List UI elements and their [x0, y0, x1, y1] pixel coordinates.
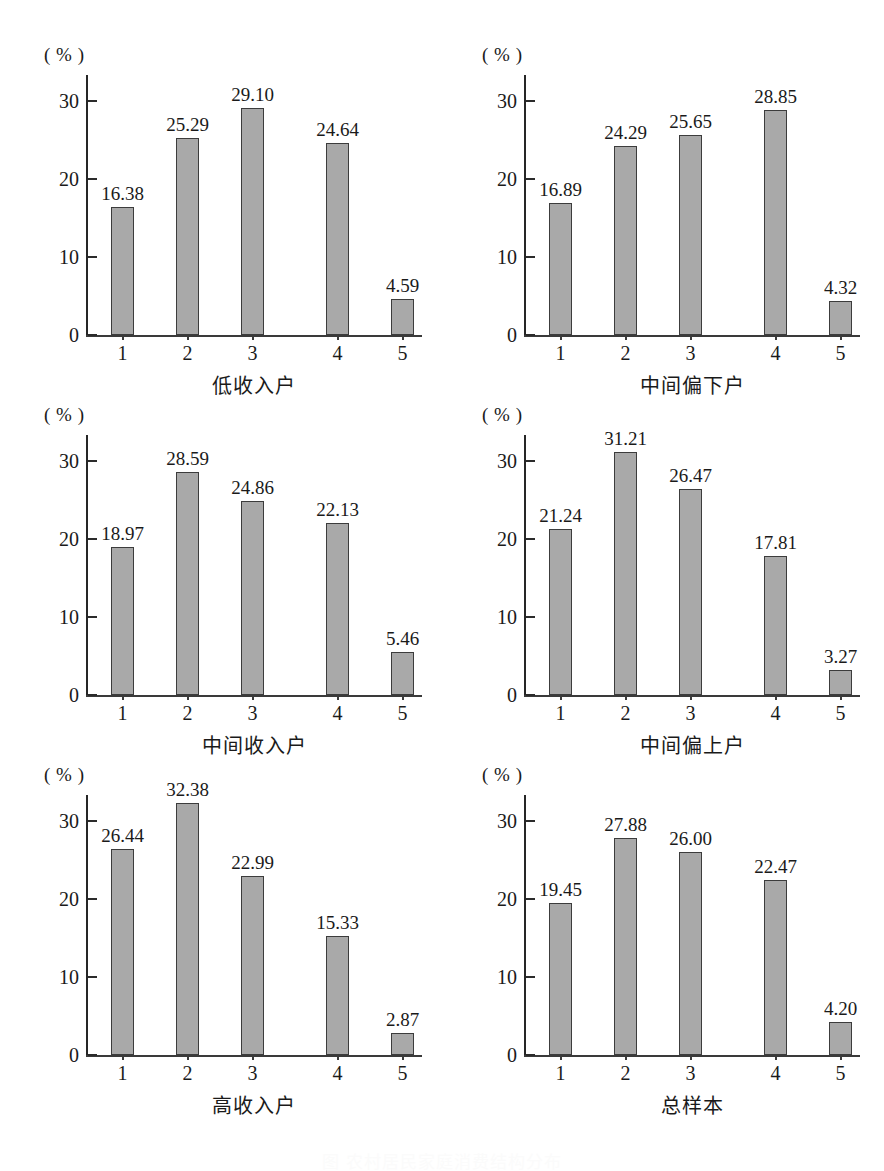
bar-value-label: 15.33: [316, 912, 359, 934]
y-axis-tick-label: 0: [69, 684, 88, 707]
x-axis-tick-mark: [187, 1055, 189, 1060]
bar: 26.44: [111, 849, 134, 1055]
bar: 3.27: [829, 670, 852, 695]
x-axis-tick-label: 2: [606, 1062, 646, 1085]
bar: 24.64: [326, 143, 349, 335]
y-axis-tick-label: 10: [59, 246, 88, 269]
bar: 16.38: [111, 207, 134, 335]
x-axis-tick-mark: [840, 335, 842, 340]
y-axis-tick-label: 20: [497, 168, 526, 191]
bar: 24.86: [241, 501, 264, 695]
x-axis-tick-label: 3: [233, 1062, 273, 1085]
bar-value-label: 24.29: [604, 122, 647, 144]
x-axis-tick-mark: [775, 335, 777, 340]
bar: 26.00: [679, 852, 702, 1055]
bar: 28.59: [176, 472, 199, 695]
x-axis-tick-label: 2: [606, 342, 646, 365]
x-axis-tick-mark: [122, 695, 124, 700]
x-axis-line: [524, 335, 860, 337]
plot-area: 21.2431.2126.4717.813.27: [526, 437, 858, 695]
x-axis-tick-mark: [252, 695, 254, 700]
x-axis-tick-label: 4: [756, 702, 796, 725]
bar-value-label: 22.47: [754, 856, 797, 878]
x-axis-tick-mark: [187, 335, 189, 340]
plot-area: 16.3825.2929.1024.644.59: [88, 77, 420, 335]
x-axis-tick-label: 1: [541, 1062, 581, 1085]
bar: 27.88: [614, 838, 637, 1055]
x-axis-tick-label: 5: [821, 702, 861, 725]
y-axis-unit-label: ( % ): [482, 404, 522, 426]
bar-value-label: 25.29: [166, 114, 209, 136]
x-axis-tick-label: 4: [318, 1062, 358, 1085]
x-axis-tick-label: 5: [383, 702, 423, 725]
bar-value-label: 26.44: [101, 825, 144, 847]
x-axis-tick-mark: [402, 335, 404, 340]
bar-value-label: 28.59: [166, 448, 209, 470]
chart-panel-6: ( % )010203019.4527.8826.0022.474.201234…: [438, 742, 880, 1122]
x-axis-tick-label: 4: [318, 342, 358, 365]
y-axis-unit-label: ( % ): [482, 764, 522, 786]
x-axis-tick-mark: [690, 1055, 692, 1060]
bar-value-label: 19.45: [539, 879, 582, 901]
bar: 26.47: [679, 489, 702, 695]
x-axis-line: [86, 695, 422, 697]
bar-value-label: 27.88: [604, 814, 647, 836]
figure-caption: 图 农村居民家庭消费结构分布: [0, 1148, 884, 1171]
x-axis-tick-mark: [690, 335, 692, 340]
bar-value-label: 22.99: [231, 852, 274, 874]
x-axis-tick-mark: [775, 695, 777, 700]
bar: 2.87: [391, 1033, 414, 1055]
x-axis-tick-mark: [840, 1055, 842, 1060]
bar-value-label: 24.64: [316, 119, 359, 141]
x-axis-tick-label: 2: [606, 702, 646, 725]
bar-value-label: 2.87: [386, 1009, 419, 1031]
x-axis-tick-mark: [690, 695, 692, 700]
y-axis-tick-label: 30: [497, 90, 526, 113]
x-axis-tick-label: 3: [233, 342, 273, 365]
chart-panel-1: ( % )010203016.3825.2929.1024.644.591234…: [0, 22, 442, 402]
y-axis-tick-label: 10: [59, 966, 88, 989]
x-axis-line: [86, 1055, 422, 1057]
bar: 25.29: [176, 138, 199, 335]
y-axis-tick-label: 0: [507, 324, 526, 347]
y-axis-tick-label: 0: [69, 1044, 88, 1067]
y-axis-unit-label: ( % ): [44, 44, 84, 66]
x-axis-tick-mark: [625, 1055, 627, 1060]
x-axis-tick-mark: [252, 335, 254, 340]
y-axis-tick-label: 10: [497, 246, 526, 269]
bar-value-label: 5.46: [386, 628, 419, 650]
x-axis-tick-label: 1: [103, 1062, 143, 1085]
x-axis-tick-label: 1: [541, 702, 581, 725]
plot-area: 18.9728.5924.8622.135.46: [88, 437, 420, 695]
y-axis-tick-label: 20: [59, 888, 88, 911]
bar: 4.20: [829, 1022, 852, 1055]
bar: 5.46: [391, 652, 414, 695]
x-axis-tick-label: 4: [756, 1062, 796, 1085]
x-axis-tick-label: 5: [383, 1062, 423, 1085]
bar: 17.81: [764, 556, 787, 695]
bar-value-label: 32.38: [166, 779, 209, 801]
bar-value-label: 31.21: [604, 428, 647, 450]
x-axis-tick-mark: [337, 695, 339, 700]
y-axis-tick-label: 10: [497, 606, 526, 629]
y-axis-tick-label: 0: [507, 684, 526, 707]
x-axis-tick-label: 1: [103, 702, 143, 725]
bar: 29.10: [241, 108, 264, 335]
plot-area: 16.8924.2925.6528.854.32: [526, 77, 858, 335]
x-axis-tick-mark: [625, 695, 627, 700]
y-axis-tick-label: 30: [497, 450, 526, 473]
x-axis-tick-label: 4: [756, 342, 796, 365]
bar: 4.59: [391, 299, 414, 335]
bar-value-label: 25.65: [669, 111, 712, 133]
bar-value-label: 4.32: [824, 277, 857, 299]
x-axis-tick-label: 3: [671, 702, 711, 725]
x-axis-tick-mark: [560, 1055, 562, 1060]
x-axis-tick-mark: [337, 1055, 339, 1060]
x-axis-tick-mark: [252, 1055, 254, 1060]
bar-value-label: 4.59: [386, 275, 419, 297]
bar-value-label: 16.89: [539, 179, 582, 201]
x-axis-tick-label: 3: [233, 702, 273, 725]
bar-value-label: 22.13: [316, 499, 359, 521]
x-axis-tick-mark: [187, 695, 189, 700]
bar-value-label: 17.81: [754, 532, 797, 554]
